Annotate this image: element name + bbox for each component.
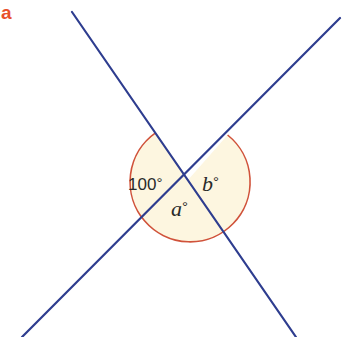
line-2 — [22, 18, 340, 337]
intersecting-lines-diagram: 100° b° a° — [0, 0, 347, 337]
